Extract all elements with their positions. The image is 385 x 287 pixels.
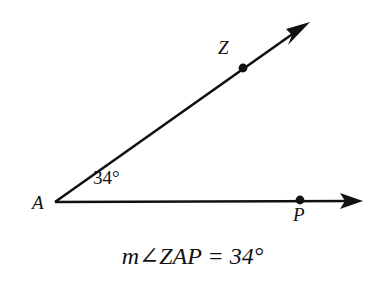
ray-ap-line: [55, 201, 352, 202]
angle-measure-label: 34°: [93, 168, 120, 187]
figure-caption: m∠ZAP = 34°: [0, 243, 385, 269]
point-z-label: Z: [218, 38, 229, 57]
point-a-label: A: [32, 193, 44, 212]
point-p-label: P: [293, 205, 305, 224]
geometry-figure: A Z P 34° m∠ZAP = 34°: [0, 0, 385, 287]
point-z-dot: [239, 64, 248, 73]
